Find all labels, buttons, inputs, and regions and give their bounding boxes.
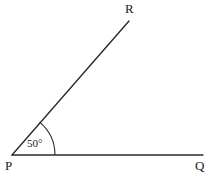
- vertex-label-q: Q: [195, 159, 204, 172]
- angle-measure-label: 50°: [27, 138, 42, 149]
- angle-diagram-figure: P Q R 50°: [0, 0, 216, 176]
- vertex-label-r: R: [125, 2, 134, 15]
- vertex-label-p: P: [5, 159, 12, 172]
- geometry-canvas: [0, 0, 216, 176]
- ray-pr-line: [12, 21, 129, 155]
